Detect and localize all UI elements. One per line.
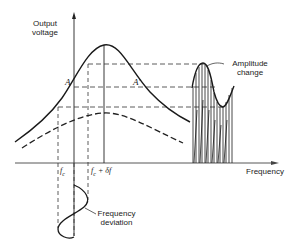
amplitude-label-line2: change: [225, 68, 275, 77]
am-waveform: [193, 64, 232, 163]
fc-label: fc: [60, 166, 65, 177]
frequency-deviation-wave: [58, 185, 88, 238]
deviation-label-line2: deviation: [94, 218, 139, 227]
resonance-curve-dashed: [22, 113, 183, 148]
fc-plus-delta-label: fc + δf: [91, 166, 111, 177]
deviation-label-line1: Frequency: [94, 209, 139, 218]
amplitude-label-line1: Amplitude: [225, 59, 275, 68]
amplitude-leader: [207, 63, 224, 66]
y-axis-label-line1: Output: [25, 19, 65, 28]
point-a-prime-label: A': [133, 77, 140, 87]
x-axis-arrow-icon: [271, 161, 279, 165]
y-axis-arrow-icon: [72, 12, 76, 19]
point-a-label: A: [65, 77, 71, 87]
resonance-curve-solid: [15, 45, 190, 142]
y-axis-label: Output voltage: [25, 19, 65, 37]
frequency-deviation-label: Frequency deviation: [94, 209, 139, 227]
amplitude-change-label: Amplitude change: [225, 59, 275, 77]
x-axis-label: Frequency: [240, 167, 290, 176]
y-axis-label-line2: voltage: [25, 28, 65, 37]
diagram-canvas: [0, 0, 291, 248]
